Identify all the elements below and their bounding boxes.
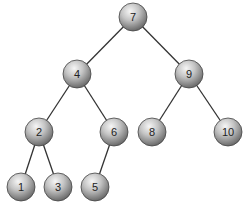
tree-node-9: 9	[175, 60, 203, 88]
node-label: 10	[222, 126, 234, 138]
tree-node-6: 6	[100, 118, 128, 146]
edges-layer	[21, 17, 228, 187]
nodes-layer: 74926810135	[7, 3, 242, 201]
tree-node-4: 4	[63, 60, 91, 88]
node-label: 7	[130, 11, 136, 23]
tree-node-3: 3	[44, 173, 72, 201]
node-label: 5	[92, 181, 98, 193]
tree-node-1: 1	[7, 173, 35, 201]
node-label: 2	[36, 126, 42, 138]
node-label: 6	[111, 126, 117, 138]
node-label: 3	[55, 181, 61, 193]
tree-node-5: 5	[81, 173, 109, 201]
tree-node-10: 10	[214, 118, 242, 146]
node-label: 4	[74, 68, 80, 80]
node-label: 8	[149, 126, 155, 138]
node-label: 9	[186, 68, 192, 80]
tree-diagram: 74926810135	[0, 0, 246, 209]
tree-node-2: 2	[25, 118, 53, 146]
node-label: 1	[18, 181, 24, 193]
tree-node-8: 8	[138, 118, 166, 146]
tree-node-7: 7	[119, 3, 147, 31]
